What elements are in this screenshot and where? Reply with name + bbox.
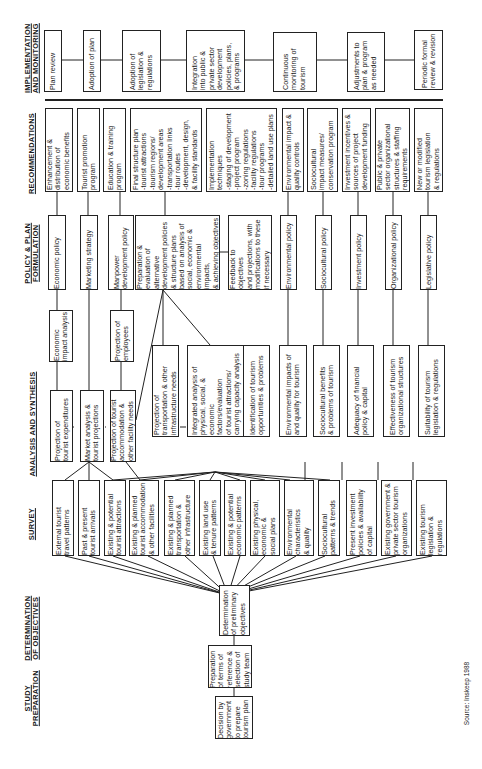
impl-box-adoption-legislation: Adoption of legislation & regulations — [122, 30, 161, 92]
impl-box-adjustments: Adjustments to plan & program as needed — [347, 32, 385, 92]
analysis-box-legislation-suitability: Suitability of tourism legislation & reg… — [418, 345, 445, 437]
policy-box-marketing: Marketing strategy — [80, 215, 98, 290]
survey-box-land-use: Existing land use & tenure patterns — [199, 480, 221, 556]
policy-box-legislative: Legislative policy — [420, 215, 437, 290]
analysis-box-economic-impact: Economic impact analysis — [49, 310, 73, 362]
rec-box-tourism-legislation: New or modified tourism legislation & re… — [414, 108, 443, 192]
stage-label-policy: POLICY & PLAN FORMULATION — [24, 213, 40, 293]
policy-box-environmental: Environmental policy — [280, 215, 297, 290]
rec-box-organizational-structures: Public & private sector organizational s… — [375, 108, 410, 192]
impl-box-plan-review: Plan review — [44, 30, 62, 92]
rec-box-implementation-techniques: Implementation techniques -staging of de… — [206, 108, 277, 192]
impl-box-integration: Integration into public & private sector… — [186, 30, 245, 92]
analysis-box-projection-employees: Projection of employees — [110, 310, 134, 362]
policy-box-manpower: Manpower development policy — [108, 215, 134, 290]
analysis-box-environmental-impacts: Environmental impacts of and quality for… — [279, 345, 307, 437]
survey-box-tourist-arrivals: Past & present tourist arrivals — [78, 480, 100, 556]
analysis-box-market-analysis: Market analysis & tourist projections — [80, 390, 104, 462]
analysis-box-accommodation-needs: Projection of tourist accommodation & ot… — [110, 390, 136, 462]
analysis-box-tourist-expenditures: Projection of tourist expenditures — [50, 390, 73, 462]
rec-box-education-training: Education & training program — [103, 108, 126, 192]
survey-box-investment-policies: Present investment policies & availabili… — [346, 480, 377, 556]
stage-label-recommendations: RECOMMENDATIONS — [28, 114, 36, 194]
policy-box-feedback: Feedback to objectives and projections, … — [228, 215, 272, 290]
survey-box-environmental-characteristics: Environmental characteristics & quality — [284, 480, 314, 556]
stage-label-implementation: IMPLEMENTATION AND MONITORING — [24, 18, 40, 98]
survey-box-transportation: Existing & planned transportation & othe… — [164, 480, 195, 556]
objectives-box-preliminary: Determination of preliminary objectives — [219, 585, 250, 636]
analysis-box-integrated-analysis: Integrated analysis of physical, social,… — [187, 345, 244, 437]
rec-box-final-structure-plan: Final structure plan -tourist attraction… — [130, 108, 202, 192]
survey-box-sociocultural-patterns: Sociocultural patterns & trends — [318, 480, 340, 556]
stage-label-preparation: STUDY PREPARATION — [24, 658, 40, 738]
rec-box-investment-incentives: Investment incentives & sources of proje… — [342, 108, 371, 192]
impl-box-adoption-of-plan: Adoption of plan — [83, 30, 101, 92]
analysis-box-transportation-needs: Projection of transportation & other inf… — [152, 345, 179, 437]
survey-box-tourism-organizations: Existing government & private sector tou… — [381, 480, 412, 556]
prep-box-terms-of-reference: Preparation of terms of reference & sele… — [208, 645, 252, 688]
impl-box-periodic-review: Periodic formal review & revision — [414, 30, 443, 90]
source-citation: Source: Inskeep 1988 — [463, 662, 470, 725]
policy-box-organizational: Organizational policy — [385, 215, 402, 290]
survey-box-external-travel: External tourist travel patterns — [52, 480, 74, 556]
rec-box-sociocultural-impact: Sociocultural impact measures/ conservat… — [307, 108, 338, 192]
policy-box-preparation-evaluation: Preparation & evaluation of alternative … — [135, 215, 220, 290]
survey-box-economic-patterns: Existing & potential economic patterns — [224, 480, 246, 556]
policy-box-investment: Investment policy — [350, 215, 367, 290]
stage-label-objectives: DETERMINATION OF OBJECTIVES — [24, 588, 40, 668]
stage-label-analysis: ANALYSIS AND SYNTHESIS — [29, 369, 37, 479]
impl-box-continuous-monitoring: Continuous monitoring of tourism — [273, 32, 317, 92]
analysis-box-financial-adequacy: Adequacy of financial policy & capital — [347, 345, 374, 437]
policy-box-sociocultural: Sociocultural policy — [315, 215, 332, 290]
analysis-box-organizational-effectiveness: Effectiveness of tourism organizational … — [383, 345, 410, 437]
analysis-box-sociocultural-benefits: Sociocultural benefits & problems of tou… — [313, 345, 340, 437]
analysis-box-opportunities-problems: Identification of tourism opportunities … — [243, 345, 270, 437]
rec-box-environmental-impact: Environmental impact & quality controls — [282, 108, 304, 192]
survey-box-tourist-attractions: Existing & potential tourist attractions — [104, 480, 126, 556]
rec-box-economic-benefits: Enhancement & distribution of economic b… — [45, 108, 73, 192]
survey-box-physical-plans: Existing physical, economic & social pla… — [250, 480, 280, 556]
rec-box-tourist-promotion: Tourist promotion program — [77, 108, 100, 192]
stage-label-survey: SURVEY — [28, 484, 36, 564]
prep-box-government-decision: Decision by government to prepare touris… — [215, 696, 253, 739]
survey-box-tourism-legislation: Existing tourism legislation & regulatio… — [416, 480, 447, 556]
survey-box-accommodation: Existing & planned tourist accommodation… — [129, 480, 159, 556]
policy-box-economic: Economic policy — [48, 215, 66, 290]
